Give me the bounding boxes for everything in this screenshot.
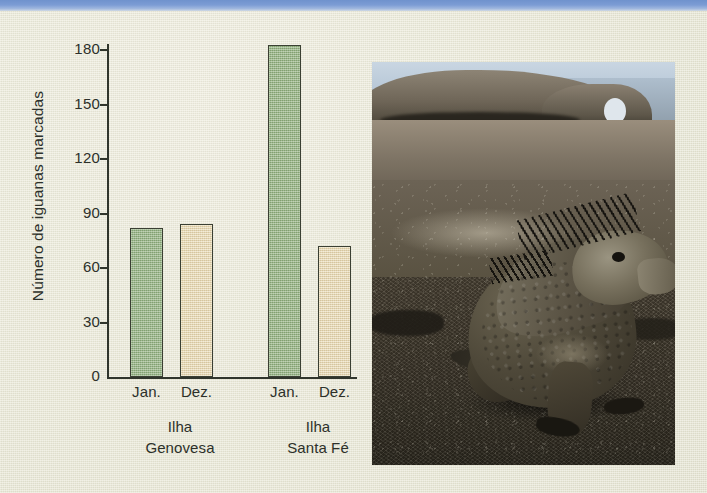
bar-chart: Número de iguanas marcadas 0306090120150…	[0, 11, 372, 493]
iguana-eye	[612, 252, 625, 262]
group-label-line1-1: Ilha	[258, 416, 378, 437]
photo-rock-left	[372, 310, 444, 336]
iguana-photograph	[372, 62, 675, 465]
group-label-0: IlhaGenovesa	[120, 416, 240, 458]
bar-1-0	[268, 45, 301, 377]
bar-1-1	[318, 246, 351, 377]
group-label-1: IlhaSanta Fé	[258, 416, 378, 458]
group-label-line1-0: Ilha	[120, 416, 240, 437]
bar-0-1	[180, 224, 213, 377]
bar-0-0	[130, 228, 163, 377]
x-label-1-1: Dez.	[305, 383, 365, 400]
group-label-line2-1: Santa Fé	[258, 437, 378, 458]
top-blue-band	[0, 0, 707, 11]
group-label-line2-0: Genovesa	[120, 437, 240, 458]
x-label-0-1: Dez.	[167, 383, 227, 400]
plot-area	[0, 11, 372, 379]
bars-container	[0, 11, 372, 377]
iguana-snout	[636, 256, 675, 296]
